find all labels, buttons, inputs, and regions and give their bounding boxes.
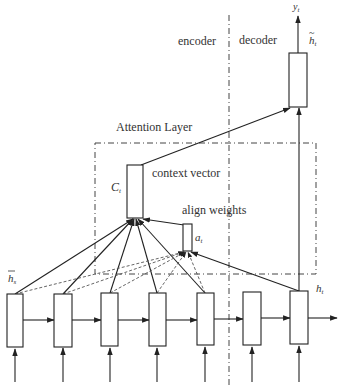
- attn-hidden-tilde: ~: [309, 27, 315, 38]
- encoder-cell-1: [7, 294, 23, 347]
- encoder-cell-4: [149, 293, 166, 346]
- decoder-cell-1: [243, 292, 261, 345]
- align-symbol: at: [195, 231, 204, 245]
- context-to-attn-hidden-line: [141, 108, 290, 165]
- encoder-cell-5: [197, 293, 214, 345]
- attentional-hidden-box: [289, 53, 307, 107]
- input-arrows: [15, 346, 299, 382]
- encoder-cell-3: [101, 293, 118, 346]
- decoder-label: decoder: [239, 33, 277, 47]
- attention-layer-title: Attention Layer: [116, 120, 192, 134]
- encoder-cell-2: [54, 294, 72, 347]
- align-weights-label: align weights: [182, 203, 247, 217]
- encoder-label: encoder: [178, 34, 216, 48]
- decoder-cell-2: [290, 291, 308, 344]
- attention-diagram: encoder decoder Attention Layer context …: [0, 0, 344, 392]
- align-weights-box: [183, 224, 192, 251]
- output-symbol: yt: [292, 1, 300, 14]
- context-vector-label: context vector: [152, 166, 220, 180]
- ht-to-align-line: [191, 252, 299, 291]
- source-hidden-symbol: hs: [8, 272, 17, 286]
- context-vector-box: [127, 165, 143, 218]
- context-symbol: Ct: [111, 180, 122, 195]
- align-to-context-line: [143, 219, 184, 225]
- align-connections: [15, 252, 205, 294]
- target-hidden-symbol: ht: [316, 282, 325, 296]
